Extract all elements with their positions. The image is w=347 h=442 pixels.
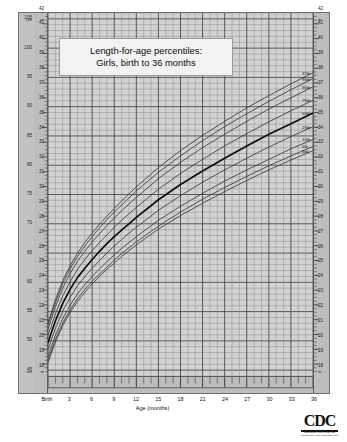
cm-tick-label: 85	[27, 134, 32, 139]
x-tick-label: 36	[311, 396, 317, 402]
x-tick-label: 33	[289, 396, 295, 402]
cm-tick-label: 90	[27, 104, 32, 109]
cm-unit-label: cm	[26, 369, 32, 374]
chart-title-box: Length-for-age percentiles: Girls, birth…	[59, 38, 233, 76]
cm-tick-label: 80	[27, 163, 32, 168]
x-tick-label: 3	[68, 396, 71, 402]
x-tick-label: 18	[178, 396, 184, 402]
percentile-label: 97th	[302, 70, 311, 75]
percentile-label: 25th	[302, 124, 311, 129]
right-inch-axis: 4241403938373635343332313029282726252423…	[313, 13, 329, 393]
percentile-label: 90th	[302, 84, 311, 89]
cm-tick-label: 100	[24, 46, 32, 51]
cm-unit-label: cm	[26, 17, 32, 22]
percentile-label: 95th	[302, 76, 311, 81]
x-tick-label: 12	[133, 396, 139, 402]
inch-unit-label: in	[41, 369, 44, 374]
inch-unit-label: in	[318, 17, 321, 22]
inch-tick-marks	[34, 13, 47, 393]
left-cm-axis: 1051009590858075706560555045cmcm	[19, 13, 34, 393]
cm-tick-label: 95	[27, 75, 32, 80]
cm-tick-label: 50	[27, 338, 32, 343]
percentile-label: 50th	[302, 111, 311, 116]
percentile-label: 3rd	[302, 148, 308, 153]
chart-title-line2: Girls, birth to 36 months	[96, 57, 196, 69]
x-tick-label: 30	[267, 396, 273, 402]
cm-tick-label: 70	[27, 221, 32, 226]
inch-unit-label: in	[318, 369, 321, 374]
chart-title-line1: Length-for-age percentiles:	[90, 45, 202, 57]
percentile-label: 10th	[302, 137, 311, 142]
cm-tick-label: 65	[27, 251, 32, 256]
x-tick-label: 6	[90, 396, 93, 402]
x-axis-title: Age (months)	[0, 405, 347, 411]
cm-tick-label: 55	[27, 309, 32, 314]
x-tick-label: 9	[112, 396, 115, 402]
x-tick-label: Birth	[41, 396, 52, 402]
x-axis-title-text: Age (months)	[136, 405, 170, 411]
cm-tick-label: 75	[27, 192, 32, 197]
x-tick-label: 15	[155, 396, 161, 402]
cdc-logo: CDC CENTERS FOR DISEASE CONTROL AND PREV…	[301, 413, 338, 438]
cdc-wordmark: CDC	[301, 413, 338, 429]
cdc-logo-subtext-2: CONTROL AND PREVENTION	[301, 435, 338, 438]
left-inch-axis: 4241403938373635343332313029282726252423…	[34, 13, 48, 393]
inch-tick-label-left: 42	[39, 7, 44, 12]
x-axis-labels: Birth369121518212427303336	[18, 396, 330, 405]
percentile-label: 75th	[302, 98, 311, 103]
x-tick-label: 27	[244, 396, 250, 402]
x-axis-ticks	[48, 377, 313, 393]
x-axis-tick-strip	[48, 376, 313, 393]
x-tick-label: 21	[200, 396, 206, 402]
inch-tick-label-right: 42	[318, 7, 323, 12]
cm-tick-label: 60	[27, 280, 32, 285]
x-tick-label: 24	[222, 396, 228, 402]
inch-unit-label: in	[41, 17, 44, 22]
inch-tick-marks	[314, 13, 329, 393]
